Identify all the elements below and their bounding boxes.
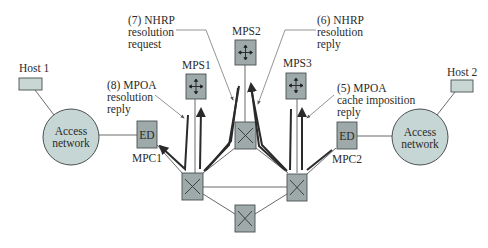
mpc2-caption: MPC2 (332, 153, 362, 165)
mps2-label: MPS2 (232, 25, 261, 37)
step6-line3: reply (317, 38, 364, 50)
host2-label: Host 2 (447, 66, 477, 78)
step7-line2: resolution (128, 26, 175, 38)
step7-line3: request (128, 38, 175, 50)
link-access-host2 (437, 92, 455, 115)
link-host1-access (35, 90, 54, 115)
annotation-step6: (6) NHRP resolution reply (317, 14, 364, 50)
access-left-line1: Access (46, 125, 96, 137)
mps3-label: MPS3 (283, 57, 312, 69)
step5-line1: (5) MPOA (337, 82, 415, 94)
annotation-step5: (5) MPOA cache imposition reply (337, 82, 415, 118)
link-switch-right-bottom (255, 194, 287, 214)
ed-mpc2-text: ED (337, 130, 357, 142)
host1-box (19, 78, 42, 90)
host1-label: Host 1 (19, 62, 49, 74)
step5-line2: cache imposition (337, 94, 415, 106)
step8-line3: reply (107, 103, 157, 115)
switch-left (182, 173, 203, 200)
mpc1-caption: MPC1 (132, 152, 162, 164)
access-network-left-label: Access network (46, 125, 96, 149)
arrow-from-mps3 (290, 109, 291, 170)
leader-step5 (307, 95, 334, 118)
mps1-label: MPS1 (182, 59, 211, 71)
mps2-box (235, 40, 256, 65)
switch-bottom (235, 205, 255, 232)
mps3-box (286, 73, 306, 99)
link-switch-left-bottom (203, 194, 235, 214)
access-network-right-label: Access network (395, 126, 445, 150)
step5-line3: reply (337, 106, 415, 118)
annotation-step8: (8) MPOA resolution reply (107, 79, 157, 115)
arrow-step8 (160, 115, 188, 169)
arrow-step5 (307, 150, 332, 170)
mps1-box (186, 74, 206, 99)
access-right-line2: network (395, 138, 445, 150)
leader-step8 (155, 95, 184, 118)
step6-line2: resolution (317, 26, 364, 38)
host2-box (451, 80, 473, 92)
annotation-step7: (7) NHRP resolution request (128, 14, 175, 50)
step8-line1: (8) MPOA (107, 79, 157, 91)
switch-right (287, 174, 307, 201)
step7-line1: (7) NHRP (128, 14, 175, 26)
access-left-line2: network (46, 137, 96, 149)
ed-mpc1-text: ED (137, 129, 157, 141)
step6-line1: (6) NHRP (317, 14, 364, 26)
mpoa-diagram (0, 0, 488, 248)
step8-line2: resolution (107, 91, 157, 103)
arrow-to-mps1 (200, 109, 201, 169)
access-right-line1: Access (395, 126, 445, 138)
switch-center (235, 122, 256, 149)
